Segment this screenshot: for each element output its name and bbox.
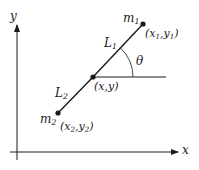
center-point-dot	[90, 74, 95, 79]
coord-part: )	[89, 120, 93, 133]
segment-l1-subscript: 1	[112, 42, 117, 51]
coord-part: (x	[145, 27, 156, 40]
coord-part: ,y	[160, 27, 170, 40]
segment-l2-label: L2	[55, 87, 68, 101]
coord-part: )	[174, 27, 178, 40]
theta-label: θ	[136, 55, 143, 67]
segment-l1-letter: L	[104, 36, 112, 50]
mass-m1-letter: m	[123, 11, 134, 25]
mass-m2-letter: m	[40, 112, 51, 126]
coord-part: (x	[60, 120, 71, 133]
theta-arc	[120, 48, 133, 77]
y-axis-label: y	[10, 10, 17, 22]
rod-segment-l1	[93, 24, 143, 77]
mass-m1-subscript: 1	[134, 17, 139, 26]
coord-part: ,y	[75, 120, 85, 133]
mass-m1-label: m1	[123, 12, 139, 26]
mass-m1-dot	[140, 21, 145, 26]
center-coordinate-label: (x,y)	[94, 81, 119, 92]
segment-l2-letter: L	[55, 86, 63, 100]
x-axis-label: x	[182, 144, 189, 156]
segment-l1-label: L1	[104, 37, 117, 51]
mass-m2-label: m2	[40, 113, 56, 127]
segment-l2-subscript: 2	[63, 92, 68, 101]
m1-coordinate-label: (x1,y1)	[145, 28, 179, 40]
mass-m2-subscript: 2	[51, 118, 56, 127]
m2-coordinate-label: (x2,y2)	[60, 121, 94, 133]
